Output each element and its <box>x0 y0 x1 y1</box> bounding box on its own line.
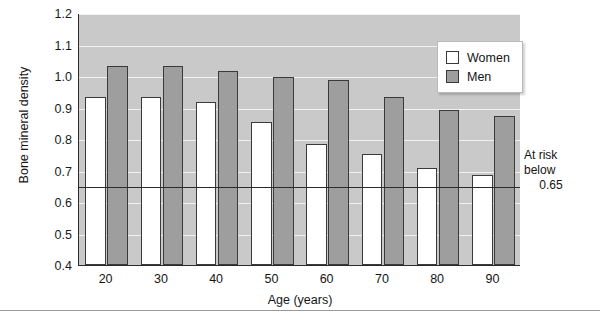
y-axis-tick-label: 0.9 <box>32 103 72 115</box>
y-axis-tick-label: 0.5 <box>32 229 72 241</box>
annotation-line-1: At risk <box>524 148 594 163</box>
x-axis-tick-label: 40 <box>186 272 246 286</box>
x-axis-tick-label: 80 <box>407 272 467 286</box>
chart-figure: 1.21.11.00.90.80.70.60.50.4 Bone mineral… <box>0 0 600 319</box>
y-axis-tick-label: 1.1 <box>32 40 72 52</box>
legend: Women Men <box>437 41 523 93</box>
y-axis-tick-label: 0.8 <box>32 134 72 146</box>
y-axis-tick-label: 1.2 <box>32 8 72 20</box>
legend-label-women: Women <box>467 51 510 65</box>
annotation-line-2: below <box>524 163 594 178</box>
x-axis-tick-label: 90 <box>462 272 522 286</box>
x-axis-label: Age (years) <box>0 293 600 307</box>
y-axis-tick-label: 1.0 <box>32 71 72 83</box>
x-axis-tick-label: 20 <box>76 272 136 286</box>
legend-item-men: Men <box>446 67 510 86</box>
x-axis-tick-label: 30 <box>131 272 191 286</box>
y-axis-label: Bone mineral density <box>17 15 31 235</box>
legend-swatch-men-icon <box>446 70 459 83</box>
x-axis-tick-label: 60 <box>297 272 357 286</box>
footer-divider <box>0 310 600 311</box>
y-axis-tick-label: 0.6 <box>32 197 72 209</box>
annotation-line-3: 0.65 <box>524 178 578 193</box>
legend-label-men: Men <box>467 70 491 84</box>
y-axis-tick-label: 0.7 <box>32 166 72 178</box>
legend-swatch-women-icon <box>446 51 459 64</box>
threshold-annotation: At risk below 0.65 <box>524 148 594 193</box>
legend-item-women: Women <box>446 48 510 67</box>
y-axis-tick-label: 0.4 <box>32 260 72 272</box>
x-axis-tick-label: 70 <box>352 272 412 286</box>
x-axis-tick-label: 50 <box>241 272 301 286</box>
